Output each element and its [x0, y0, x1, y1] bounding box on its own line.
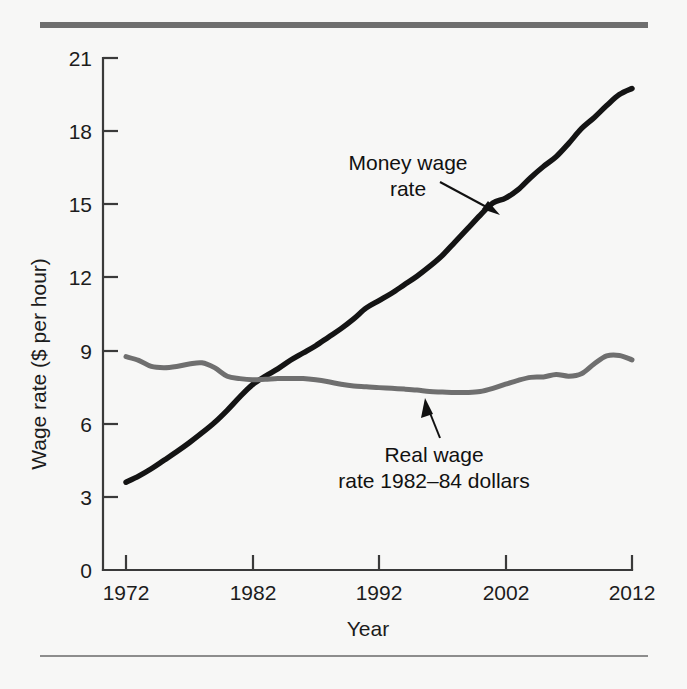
- y-ticklabel-0: 0: [80, 559, 92, 582]
- y-ticklabel-18: 18: [69, 120, 92, 143]
- chart-container: 21 18 15 12 9 6 3 0 1972 1982 1992: [0, 0, 687, 689]
- y-ticklabel-12: 12: [69, 266, 92, 289]
- x-ticklabel-1992: 1992: [356, 581, 403, 604]
- x-axis-title: Year: [347, 617, 389, 640]
- wage-rate-line-chart: 21 18 15 12 9 6 3 0 1972 1982 1992: [0, 0, 687, 689]
- money-wage-annotation: Money wage rate: [348, 151, 500, 215]
- money-wage-annotation-line1: Money wage: [348, 151, 467, 174]
- y-axis-ticks: [103, 131, 118, 497]
- real-wage-annotation-line1: Real wage: [384, 443, 483, 466]
- y-ticklabel-21: 21: [69, 47, 92, 70]
- x-ticklabel-2002: 2002: [483, 581, 530, 604]
- axes: [103, 58, 632, 570]
- real-wage-rate-line: [126, 355, 632, 393]
- y-ticklabel-9: 9: [80, 340, 92, 363]
- figure-page: 21 18 15 12 9 6 3 0 1972 1982 1992: [0, 0, 687, 689]
- x-ticklabel-2012: 2012: [609, 581, 656, 604]
- money-wage-annotation-arrow-shaft: [440, 182, 492, 210]
- y-ticklabel-15: 15: [69, 193, 92, 216]
- x-ticklabel-1982: 1982: [230, 581, 277, 604]
- y-ticklabel-3: 3: [80, 486, 92, 509]
- y-axis-title: Wage rate ($ per hour): [27, 258, 50, 470]
- real-wage-annotation: Real wage rate 1982–84 dollars: [338, 398, 529, 492]
- money-wage-annotation-line2: rate: [390, 177, 426, 200]
- y-ticklabel-6: 6: [80, 413, 92, 436]
- money-wage-rate-line: [126, 88, 632, 482]
- x-ticklabel-1972: 1972: [103, 581, 150, 604]
- y-axis-tick-labels: 21 18 15 12 9 6 3 0: [69, 47, 92, 582]
- real-wage-annotation-line2: rate 1982–84 dollars: [338, 469, 529, 492]
- x-axis-tick-labels: 1972 1982 1992 2002 2012: [103, 581, 656, 604]
- x-axis-ticks: [126, 555, 506, 570]
